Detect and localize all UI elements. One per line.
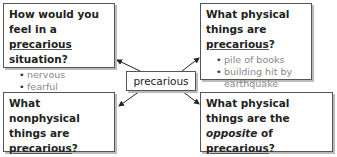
answer-list: pile of books building hit by earthquake	[206, 54, 306, 90]
box-nonphysical: What nonphysical things are precarious? …	[3, 92, 115, 152]
question-opposite: What physical things are the opposite of…	[206, 96, 327, 156]
center-word: precarious	[126, 71, 196, 91]
answer-list: nervous fearful	[9, 69, 109, 93]
list-item: building hit by earthquake	[216, 66, 306, 90]
list-item: nervous	[19, 69, 109, 81]
list-item: pile of books	[216, 54, 306, 66]
box-physical: What physical things are precarious? pil…	[200, 3, 312, 80]
question-nonphysical: What nonphysical things are precarious?	[9, 96, 109, 156]
box-feelings: How would you feel in a precarious situa…	[3, 3, 115, 68]
box-opposite: What physical things are the opposite of…	[200, 92, 333, 152]
question-physical: What physical things are precarious?	[206, 7, 306, 52]
question-feelings: How would you feel in a precarious situa…	[9, 7, 109, 67]
